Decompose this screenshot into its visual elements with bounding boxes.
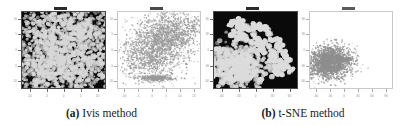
caption-b-text: t-SNE method bbox=[278, 107, 344, 119]
x-tick-mark bbox=[358, 89, 359, 92]
x-tick-label: 30 bbox=[356, 93, 359, 100]
x-tick-mark bbox=[256, 89, 257, 92]
panel-ivis-dark: 1050-5-10 -10-50510 bbox=[12, 0, 109, 100]
y-tick-label: -10 bbox=[13, 79, 17, 83]
y-tick-label: 10 bbox=[110, 17, 113, 21]
y-tick-label: 0 bbox=[15, 48, 17, 52]
panel-ivis-light: 1050-5-10 -10-5051015 bbox=[108, 0, 204, 100]
x-tick-label: 10 bbox=[96, 93, 99, 100]
x-tick-labels: -10-5051015 bbox=[117, 93, 201, 100]
x-tick-label: -60 bbox=[314, 93, 318, 100]
x-tick-mark bbox=[273, 89, 274, 92]
plot-area bbox=[213, 11, 298, 89]
caption-b: (b) t-SNE method bbox=[203, 100, 403, 126]
y-tick-label: 10 bbox=[14, 17, 17, 21]
y-tick-label: -5 bbox=[110, 64, 113, 68]
x-tick-mark bbox=[138, 89, 139, 92]
y-tick-label: -60 bbox=[301, 79, 305, 83]
x-tick-label: -30 bbox=[328, 93, 332, 100]
y-tick-label: 60 bbox=[302, 17, 305, 21]
x-tick-labels: -60-3003060 bbox=[213, 93, 298, 100]
y-tick-label: -30 bbox=[301, 64, 305, 68]
x-tick-label: -5 bbox=[45, 93, 48, 100]
x-tick-label: 0 bbox=[151, 93, 153, 100]
x-tick-mark bbox=[344, 89, 345, 92]
x-tick-mark bbox=[316, 89, 317, 92]
x-tick-labels: -10-50510 bbox=[21, 93, 106, 100]
scatter-points bbox=[310, 12, 392, 88]
x-tick-label: 0 bbox=[63, 93, 65, 100]
panel-title-mark bbox=[12, 4, 109, 9]
x-tick-mark bbox=[330, 89, 331, 92]
y-tick-label: 5 bbox=[15, 32, 17, 36]
x-tick-label: 60 bbox=[288, 93, 291, 100]
panel-title-mark bbox=[204, 4, 301, 9]
y-tick-label: 30 bbox=[206, 32, 209, 36]
y-tick-label: -5 bbox=[14, 64, 17, 68]
panel-title-mark bbox=[108, 4, 204, 9]
x-tick-label: 5 bbox=[165, 93, 167, 100]
caption-a: (a) Ivis method bbox=[0, 100, 203, 126]
x-tick-mark bbox=[166, 89, 167, 92]
panel-title-mark bbox=[300, 4, 396, 9]
y-tick-labels: 1050-5-10 bbox=[108, 11, 113, 89]
x-tick-label: 5 bbox=[80, 93, 82, 100]
x-tick-mark bbox=[372, 89, 373, 92]
x-tick-mark bbox=[290, 89, 291, 92]
y-tick-labels: 60300-30-60 bbox=[300, 11, 305, 89]
panel-tsne-light: 60300-30-60 -60-300306090 bbox=[300, 0, 396, 100]
x-tick-mark bbox=[64, 89, 65, 92]
y-tick-label: 30 bbox=[302, 32, 305, 36]
caption-a-label: (a) bbox=[66, 107, 79, 119]
x-tick-labels: -60-300306090 bbox=[309, 93, 393, 100]
x-tick-mark bbox=[47, 89, 48, 92]
y-tick-label: -60 bbox=[205, 79, 209, 83]
caption-a-text: Ivis method bbox=[82, 107, 137, 119]
x-tick-label: -5 bbox=[137, 93, 140, 100]
x-tick-label: 0 bbox=[255, 93, 257, 100]
panel-tsne-dark: 60300-30-60 -60-3003060 bbox=[204, 0, 301, 100]
caption-b-label: (b) bbox=[261, 107, 275, 119]
y-tick-label: -10 bbox=[109, 79, 113, 83]
x-tick-label: -30 bbox=[236, 93, 240, 100]
y-tick-labels: 1050-5-10 bbox=[12, 11, 17, 89]
x-tick-label: 10 bbox=[178, 93, 181, 100]
y-tick-label: 5 bbox=[111, 32, 113, 36]
x-tick-mark bbox=[180, 89, 181, 92]
x-tick-mark bbox=[239, 89, 240, 92]
x-tick-label: -60 bbox=[219, 93, 223, 100]
x-tick-label: 15 bbox=[192, 93, 195, 100]
figure-container: 1050-5-10 -10-50510 1050-5-10 -10-505101… bbox=[0, 0, 403, 126]
x-tick-label: -10 bbox=[122, 93, 126, 100]
plot-area bbox=[117, 11, 201, 89]
y-tick-label: 60 bbox=[206, 17, 209, 21]
x-tick-mark bbox=[30, 89, 31, 92]
caption-row: (a) Ivis method (b) t-SNE method bbox=[0, 100, 403, 126]
x-tick-label: -10 bbox=[27, 93, 31, 100]
scatter-points bbox=[22, 12, 105, 88]
y-tick-label: 0 bbox=[111, 48, 113, 52]
x-tick-mark bbox=[152, 89, 153, 92]
x-tick-label: 30 bbox=[271, 93, 274, 100]
y-tick-label: -30 bbox=[205, 64, 209, 68]
x-tick-mark bbox=[81, 89, 82, 92]
x-tick-mark bbox=[124, 89, 125, 92]
plot-area bbox=[309, 11, 393, 89]
x-tick-mark bbox=[98, 89, 99, 92]
y-tick-labels: 60300-30-60 bbox=[204, 11, 209, 89]
y-tick-label: 0 bbox=[207, 48, 209, 52]
x-tick-label: 0 bbox=[343, 93, 345, 100]
y-tick-label: 0 bbox=[303, 48, 305, 52]
scatter-points bbox=[214, 12, 297, 88]
x-tick-mark bbox=[386, 89, 387, 92]
x-tick-label: 90 bbox=[384, 93, 387, 100]
plot-area bbox=[21, 11, 106, 89]
panel-row: 1050-5-10 -10-50510 1050-5-10 -10-505101… bbox=[0, 0, 403, 100]
x-tick-mark bbox=[194, 89, 195, 92]
x-tick-label: 60 bbox=[370, 93, 373, 100]
x-tick-mark bbox=[222, 89, 223, 92]
scatter-points bbox=[118, 12, 200, 88]
